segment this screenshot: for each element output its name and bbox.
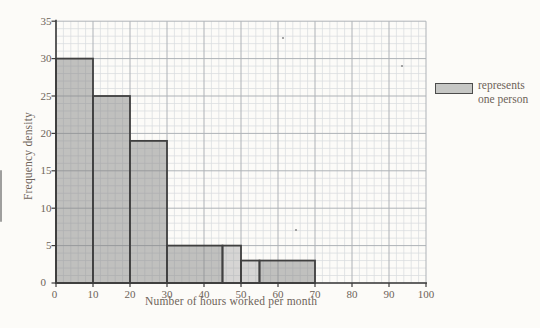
svg-text:100: 100 <box>418 288 435 300</box>
histogram-bar-30-45 <box>167 246 223 283</box>
svg-text:35: 35 <box>41 15 53 27</box>
histogram-bar-10-20 <box>93 96 130 283</box>
legend-label: represents one person <box>478 79 528 106</box>
legend-swatch-icon <box>435 83 473 94</box>
scan-speck <box>401 65 403 67</box>
svg-text:5: 5 <box>46 239 52 251</box>
legend-label-line1: represents <box>478 79 525 91</box>
scan-artifact-edge-mark <box>0 170 2 222</box>
legend-label-line2: one person <box>478 93 528 105</box>
scan-speck <box>295 229 297 231</box>
x-axis-title: Number of hours worked per month <box>46 295 416 307</box>
svg-text:15: 15 <box>41 164 53 176</box>
svg-text:10: 10 <box>41 202 53 214</box>
histogram-bar-20-30 <box>130 141 167 283</box>
svg-text:20: 20 <box>41 127 53 139</box>
histogram-bar-55-70 <box>260 261 316 283</box>
svg-text:25: 25 <box>41 90 53 102</box>
svg-text:30: 30 <box>41 52 53 64</box>
histogram-chart: 051015202530350102030405060708090100 <box>0 0 540 328</box>
histogram-bar-45-50 <box>223 246 242 283</box>
svg-text:0: 0 <box>41 276 47 288</box>
scan-speck <box>282 37 284 39</box>
histogram-figure: 051015202530350102030405060708090100 Fre… <box>0 0 540 328</box>
histogram-bar-50-55 <box>241 261 260 283</box>
y-axis-title: Frequency density <box>22 91 38 221</box>
histogram-bar-0-10 <box>56 59 93 283</box>
